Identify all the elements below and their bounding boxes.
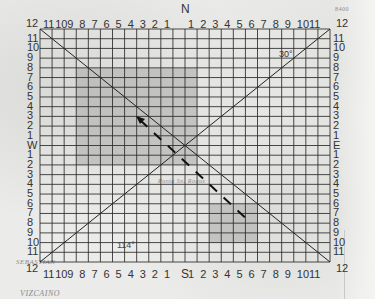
- bottom-tick-label: 10: [297, 269, 309, 280]
- top-tick-label: 9: [67, 19, 73, 30]
- top-tick-label: 2: [152, 19, 158, 30]
- bottom-tick-label: 10: [55, 269, 67, 280]
- top-tick-label: 6: [103, 19, 109, 30]
- top-tick-label: 7: [91, 19, 97, 30]
- left-tick-label: 11: [27, 246, 38, 257]
- bottom-tick-label: 7: [91, 269, 97, 280]
- bottom-tick-label: 1: [164, 269, 170, 280]
- bottom-tick-label: 5: [236, 269, 242, 280]
- angle-label-114: 114°: [117, 240, 135, 251]
- bottom-tick-label: 8: [273, 269, 279, 280]
- bottom-tick-label: 12: [336, 263, 348, 274]
- top-tick-label: 10: [297, 19, 309, 30]
- bottom-tick-label: 3: [212, 269, 218, 280]
- top-tick-label: 5: [236, 19, 242, 30]
- top-tick-label: 4: [128, 19, 134, 30]
- top-tick-label: 12: [26, 18, 38, 29]
- top-tick-label: 12: [336, 18, 348, 29]
- bottom-tick-label: 7: [261, 269, 267, 280]
- bottom-tick-label: 11: [43, 269, 54, 280]
- top-tick-label: 2: [200, 19, 206, 30]
- bottom-tick-label: 2: [152, 269, 158, 280]
- top-tick-label: 1: [164, 19, 170, 30]
- top-tick-label: 9: [285, 19, 291, 30]
- compass-north: N: [181, 4, 190, 15]
- top-tick-label: 5: [116, 19, 122, 30]
- bottom-tick-label: 9: [285, 269, 291, 280]
- top-tick-label: 10: [55, 19, 67, 30]
- top-tick-label: 1: [188, 19, 194, 30]
- right-tick-label: 11: [333, 246, 344, 257]
- top-tick-label: 3: [140, 19, 146, 30]
- bottom-tick-label: 6: [248, 269, 254, 280]
- bottom-tick-label: 12: [26, 263, 38, 274]
- top-tick-label: 11: [309, 19, 320, 30]
- angle-label-30: 30°: [279, 49, 293, 60]
- top-tick-label: 11: [43, 19, 54, 30]
- bottom-tick-label: 6: [103, 269, 109, 280]
- bottom-tick-label: 11: [309, 269, 320, 280]
- bottom-tick-label: 1: [188, 269, 194, 280]
- top-tick-label: 4: [224, 19, 230, 30]
- bottom-tick-label: 9: [67, 269, 73, 280]
- bottom-tick-label: 8: [79, 269, 85, 280]
- top-tick-label: 6: [248, 19, 254, 30]
- bottom-tick-label: 2: [200, 269, 206, 280]
- top-tick-label: 3: [212, 19, 218, 30]
- top-tick-label: 7: [261, 19, 267, 30]
- bottom-tick-label: 5: [116, 269, 122, 280]
- bottom-tick-label: 3: [140, 269, 146, 280]
- bottom-tick-label: 4: [224, 269, 230, 280]
- top-tick-label: 8: [79, 19, 85, 30]
- top-tick-label: 8: [273, 19, 279, 30]
- grid-overlay: [0, 0, 375, 299]
- bottom-tick-label: 4: [128, 269, 134, 280]
